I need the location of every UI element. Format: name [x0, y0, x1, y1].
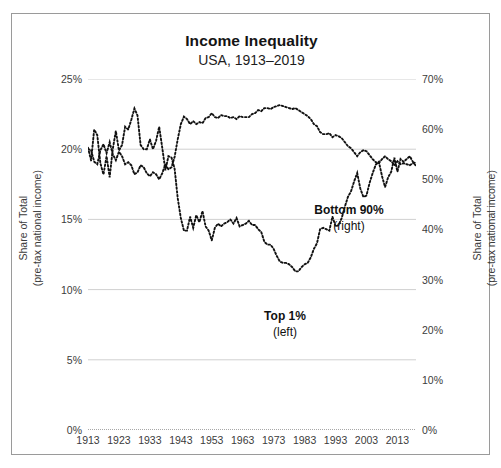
- x-axis-ticks: 1913192319331943195319631973198319932003…: [88, 434, 416, 454]
- y-axis-right-tick: 10%: [422, 374, 443, 386]
- chart-title: Income Inequality: [12, 32, 491, 50]
- y-axis-right-tick: 20%: [422, 324, 443, 336]
- x-axis-tick: 2003: [355, 434, 378, 446]
- series-label-top-1: Top 1% (left): [230, 309, 340, 340]
- y-axis-left-tick: 20%: [61, 143, 82, 155]
- series-label-top-1-sub: (left): [230, 325, 340, 341]
- y-axis-right-title-line2: (pre-tax national income): [485, 170, 497, 286]
- y-axis-right-title: Share of Total (pre-tax national income): [470, 148, 498, 308]
- x-axis-tick: 1923: [107, 434, 130, 446]
- chart-canvas: [88, 79, 416, 430]
- x-axis-tick: 1993: [324, 434, 347, 446]
- series-line-top-1: [88, 108, 416, 271]
- y-axis-right-title-line1: Share of Total: [471, 196, 483, 261]
- y-axis-left-tick: 5%: [67, 354, 82, 366]
- y-axis-left-title-line2: (pre-tax national income): [31, 170, 43, 286]
- y-axis-right-tick: 40%: [422, 223, 443, 235]
- y-axis-right-ticks: 0%10%20%30%40%50%60%70%: [422, 79, 472, 430]
- y-axis-right-tick: 50%: [422, 173, 443, 185]
- x-axis-tick: 1913: [76, 434, 99, 446]
- y-axis-right-tick: 60%: [422, 123, 443, 135]
- x-axis-tick: 1963: [231, 434, 254, 446]
- chart-frame: Income Inequality USA, 1913–2019 0%5%10%…: [11, 13, 490, 455]
- chart-subtitle: USA, 1913–2019: [12, 52, 491, 68]
- series-label-bottom-90-sub: (right): [284, 219, 414, 235]
- x-axis-tick: 1953: [200, 434, 223, 446]
- series-label-bottom-90-main: Bottom 90%: [284, 203, 414, 219]
- x-axis-tick: 1933: [138, 434, 161, 446]
- y-axis-left-tick: 10%: [61, 284, 82, 296]
- x-axis-tick: 1983: [293, 434, 316, 446]
- x-axis-tick: 1973: [262, 434, 285, 446]
- series-label-top-1-main: Top 1%: [230, 309, 340, 325]
- y-axis-right-tick: 0%: [422, 424, 437, 436]
- y-axis-right-tick: 30%: [422, 274, 443, 286]
- y-axis-left-title: Share of Total (pre-tax national income): [16, 148, 44, 308]
- y-axis-left-tick: 15%: [61, 213, 82, 225]
- y-axis-left-title-line1: Share of Total: [17, 196, 29, 261]
- y-axis-right-tick: 70%: [422, 73, 443, 85]
- x-axis-tick: 1943: [169, 434, 192, 446]
- y-axis-left-tick: 25%: [61, 73, 82, 85]
- plot-area: Bottom 90% (right) Top 1% (left): [88, 79, 416, 430]
- x-axis-tick: 2013: [386, 434, 409, 446]
- series-label-bottom-90: Bottom 90% (right): [284, 203, 414, 234]
